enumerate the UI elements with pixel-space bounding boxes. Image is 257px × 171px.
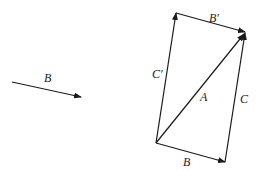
label-b-standalone: B — [44, 71, 52, 85]
parallelogram: B C C′ B′ A — [152, 11, 249, 169]
label-b-bottom: B — [183, 155, 191, 169]
label-a: A — [199, 90, 208, 104]
label-c-right: C — [240, 92, 249, 106]
standalone-vector-b: B — [12, 71, 81, 97]
vector-diagram: B B C C′ B′ A — [0, 0, 257, 171]
vector-b-bottom — [156, 143, 225, 162]
label-b-prime: B′ — [209, 11, 219, 25]
label-c-prime: C′ — [152, 67, 163, 81]
